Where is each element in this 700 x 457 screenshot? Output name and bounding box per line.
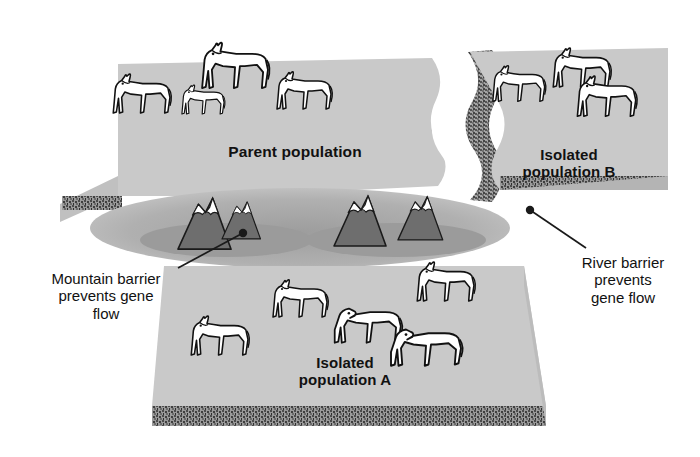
- parent-platform-soil-band: [62, 196, 122, 210]
- parent-population-label: Parent population: [195, 143, 395, 161]
- isolated-population-a-label: Isolated population A: [255, 354, 435, 389]
- river-barrier-caption: River barrier prevents gene flow: [548, 254, 698, 306]
- speciation-diagram: Parent population Isolated population B …: [0, 0, 700, 457]
- mountain-callout-dot: [239, 229, 247, 237]
- river-callout-dot: [526, 206, 534, 214]
- popA-soil-band: [152, 406, 546, 426]
- isolated-population-a-platform: [152, 266, 546, 426]
- mountain-barrier: [90, 188, 510, 268]
- river-barrier-callout-leader: [526, 206, 586, 248]
- mountain-barrier-caption: Mountain barrier prevents gene flow: [8, 270, 204, 322]
- isolated-population-b-label: Isolated population B: [484, 146, 654, 181]
